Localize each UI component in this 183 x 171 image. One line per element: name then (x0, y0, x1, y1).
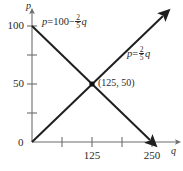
demand-eq-intercept: 100 (53, 16, 69, 27)
demand-frac-numerator: 2 (75, 14, 81, 22)
equilibrium-dot (89, 81, 94, 86)
x-tick-label-250: 250 (138, 150, 166, 161)
origin-tick-label: 0 (18, 137, 24, 148)
supply-frac-numerator: 2 (139, 46, 145, 54)
demand-frac-denominator: 5 (75, 21, 81, 30)
y-axis-name: p (26, 1, 31, 11)
supply-equation-label: p=25q (127, 46, 150, 63)
demand-eq-fraction: 25 (75, 14, 81, 31)
equilibrium-point-label: (125, 50) (98, 78, 135, 88)
x-tick-label-125: 125 (78, 150, 106, 161)
supply-eq-sign: = (132, 48, 138, 59)
demand-equation-label: p=100−25q (42, 14, 87, 31)
y-tick-label-100: 100 (0, 20, 24, 31)
plot-canvas (0, 0, 183, 171)
demand-eq-minus: − (69, 16, 75, 27)
demand-eq-variable: q (82, 16, 87, 27)
y-tick-label-50: 50 (0, 78, 24, 89)
x-axis-name: q (171, 146, 176, 156)
supply-demand-figure: p q 0 100 50 125 250 p=100−25q p=25q (12… (0, 0, 183, 171)
supply-frac-denominator: 5 (139, 53, 145, 62)
supply-eq-variable: q (145, 48, 150, 59)
supply-eq-fraction: 25 (139, 46, 145, 63)
